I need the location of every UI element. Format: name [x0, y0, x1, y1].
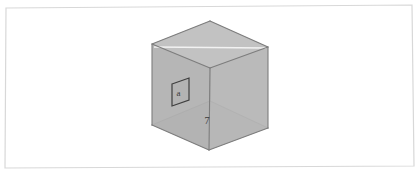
cube-figure-canvas: a 7 — [0, 0, 420, 172]
isometric-cube — [152, 21, 268, 150]
label-a: a — [177, 88, 181, 98]
figure-root: a 7 — [0, 0, 420, 172]
edge-length-label: 7 — [205, 115, 210, 126]
